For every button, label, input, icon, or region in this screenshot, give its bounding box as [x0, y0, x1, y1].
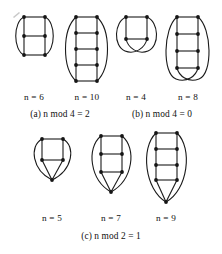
label-n8: n = 8 — [178, 92, 198, 102]
scan-speck — [13, 12, 20, 18]
graph-n4 — [116, 15, 156, 52]
label-n7: n = 7 — [101, 213, 121, 223]
caption-c: (c) n mod 2 = 1 — [81, 231, 141, 242]
figure-canvas: n = 6 n = 10 n = 4 n = 8 (a) n mod 4 = 2… — [0, 0, 222, 254]
graph-n5 — [34, 137, 71, 182]
caption-a: (a) n mod 4 = 2 — [30, 109, 90, 120]
graph-n6 — [16, 15, 54, 57]
label-n5: n = 5 — [42, 213, 62, 223]
graph-n10 — [66, 15, 108, 83]
label-n9: n = 9 — [156, 213, 176, 223]
caption-b: (b) n mod 4 = 0 — [132, 109, 192, 120]
graph-n7 — [92, 134, 131, 194]
label-n4: n = 4 — [126, 92, 146, 102]
graph-n8 — [166, 15, 209, 80]
label-n10: n = 10 — [75, 92, 100, 102]
graph-n9 — [147, 131, 187, 204]
label-n6: n = 6 — [24, 92, 44, 102]
graph-figure: n = 6 n = 10 n = 4 n = 8 (a) n mod 4 = 2… — [0, 0, 222, 254]
